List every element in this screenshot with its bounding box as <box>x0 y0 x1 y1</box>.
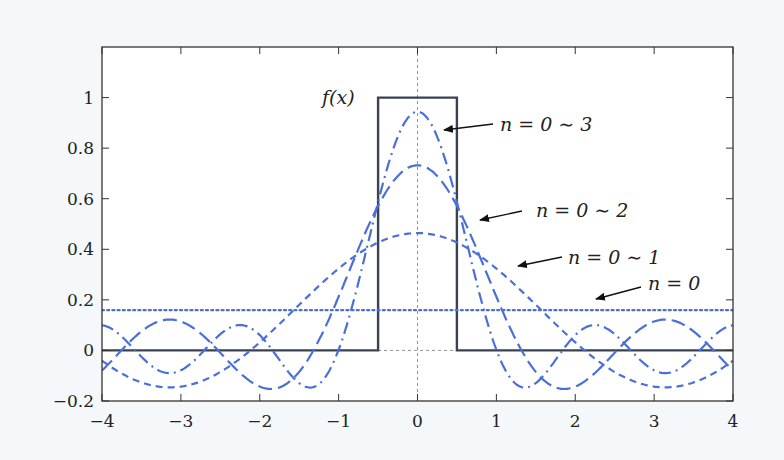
y-tick-label: −0.2 <box>53 391 94 411</box>
label-n2: n = 0 ∼ 2 <box>536 199 628 221</box>
x-tick-label: −3 <box>168 411 193 431</box>
x-tick-label: 1 <box>491 411 502 431</box>
y-tick-label: 0.2 <box>67 290 94 310</box>
x-tick-label: 0 <box>412 411 423 431</box>
y-tick-label: 0.4 <box>67 239 94 259</box>
y-tick-label: 0.8 <box>67 138 94 158</box>
y-tick-label: 0 <box>83 340 94 360</box>
x-tick-label: −4 <box>89 411 114 431</box>
x-tick-label: 2 <box>570 411 581 431</box>
fx-label: f(x) <box>320 86 355 108</box>
y-tick-label: 1 <box>83 88 94 108</box>
x-tick-label: −1 <box>326 411 351 431</box>
x-tick-label: 4 <box>728 411 739 431</box>
x-tick-label: 3 <box>649 411 660 431</box>
label-n1: n = 0 ∼ 1 <box>568 246 660 268</box>
y-tick-label: 0.6 <box>67 189 94 209</box>
label-n0: n = 0 <box>648 272 700 294</box>
x-tick-label: −2 <box>247 411 272 431</box>
fourier-series-chart: −4−3−2−101234−0.200.20.40.60.81 f(x) n =… <box>0 0 784 460</box>
label-n3: n = 0 ∼ 3 <box>500 113 592 135</box>
